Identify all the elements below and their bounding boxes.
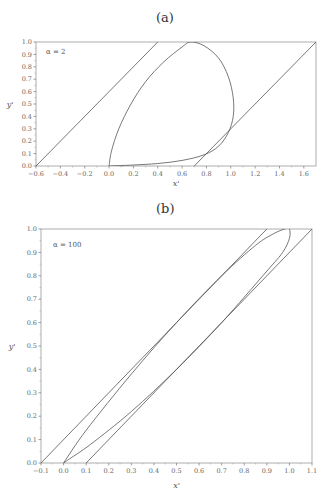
y-tick-label: 0.2 <box>27 412 37 420</box>
right-boundary-line <box>194 42 316 166</box>
x-tick-label: 0.6 <box>177 170 187 178</box>
x-tick-label: 0.9 <box>262 467 272 475</box>
y-tick-label: 0.0 <box>22 162 32 170</box>
left-boundary-line <box>36 42 158 166</box>
y-tick-label: 0.5 <box>27 342 37 350</box>
x-tick-label: 1.4 <box>274 170 284 178</box>
y-tick-label: 0.9 <box>27 249 37 257</box>
y-axis-label: y' <box>6 100 14 109</box>
x-tick-label: 0.0 <box>104 170 114 178</box>
x-tick-label: −0.1 <box>33 467 49 475</box>
plot-frame <box>36 42 316 166</box>
x-tick-label: 0.7 <box>216 467 226 475</box>
y-tick-label: 0.4 <box>27 366 37 374</box>
y-tick-label: 0.1 <box>22 150 32 158</box>
y-tick-label: 0.2 <box>22 137 32 145</box>
figure-canvas: 0.00.10.20.30.40.50.60.70.80.91.0−0.6−0.… <box>0 0 334 503</box>
y-tick-label: 1.0 <box>27 225 37 233</box>
y-tick-label: 0.6 <box>27 319 37 327</box>
y-tick-label: 0.5 <box>22 100 32 108</box>
y-tick-label: 0.7 <box>27 295 37 303</box>
x-tick-label: 0.5 <box>171 467 181 475</box>
x-tick-label: 0.2 <box>128 170 138 178</box>
x-tick-label: 1.0 <box>226 170 236 178</box>
x-tick-label: 0.4 <box>149 467 159 475</box>
x-tick-label: 1.2 <box>250 170 260 178</box>
x-tick-label: 0.4 <box>153 170 163 178</box>
y-tick-label: 1.0 <box>22 38 32 46</box>
y-axis-label: y' <box>8 342 16 351</box>
right-boundary-line <box>86 229 312 463</box>
alpha-annotation: α = 100 <box>53 241 81 249</box>
y-tick-label: 0.7 <box>22 75 32 83</box>
x-tick-label: 0.1 <box>81 467 91 475</box>
y-tick-label: 0.4 <box>22 113 32 121</box>
x-tick-label: −0.2 <box>77 170 93 178</box>
y-tick-label: 0.1 <box>27 436 37 444</box>
x-tick-label: 0.0 <box>58 467 68 475</box>
x-tick-label: 1.1 <box>307 467 317 475</box>
x-tick-label: 0.6 <box>194 467 204 475</box>
closed-curve <box>109 42 234 166</box>
x-tick-label: 0.8 <box>201 170 211 178</box>
x-tick-label: 1.6 <box>299 170 309 178</box>
y-tick-label: 0.0 <box>27 459 37 467</box>
plot-frame <box>41 229 312 463</box>
alpha-annotation: α = 2 <box>46 48 66 56</box>
y-tick-label: 0.8 <box>22 63 32 71</box>
chart-panel-a: 0.00.10.20.30.40.50.60.70.80.91.0−0.6−0.… <box>6 38 316 188</box>
x-tick-label: 0.3 <box>126 467 136 475</box>
x-axis-label: x' <box>173 179 180 188</box>
x-tick-label: 0.8 <box>239 467 249 475</box>
x-axis-label: x' <box>173 481 180 490</box>
chart-panel-b: 0.00.10.20.30.40.50.60.70.80.91.0−0.10.0… <box>8 225 318 490</box>
y-tick-label: 0.3 <box>27 389 37 397</box>
x-tick-label: −0.6 <box>28 170 44 178</box>
x-tick-label: −0.4 <box>52 170 68 178</box>
x-tick-label: 1.0 <box>284 467 294 475</box>
y-tick-label: 0.3 <box>22 125 32 133</box>
closed-curve <box>64 228 291 463</box>
left-boundary-line <box>41 229 267 463</box>
y-tick-label: 0.8 <box>27 272 37 280</box>
y-tick-label: 0.6 <box>22 88 32 96</box>
y-tick-label: 0.9 <box>22 51 32 59</box>
x-tick-label: 0.2 <box>104 467 114 475</box>
